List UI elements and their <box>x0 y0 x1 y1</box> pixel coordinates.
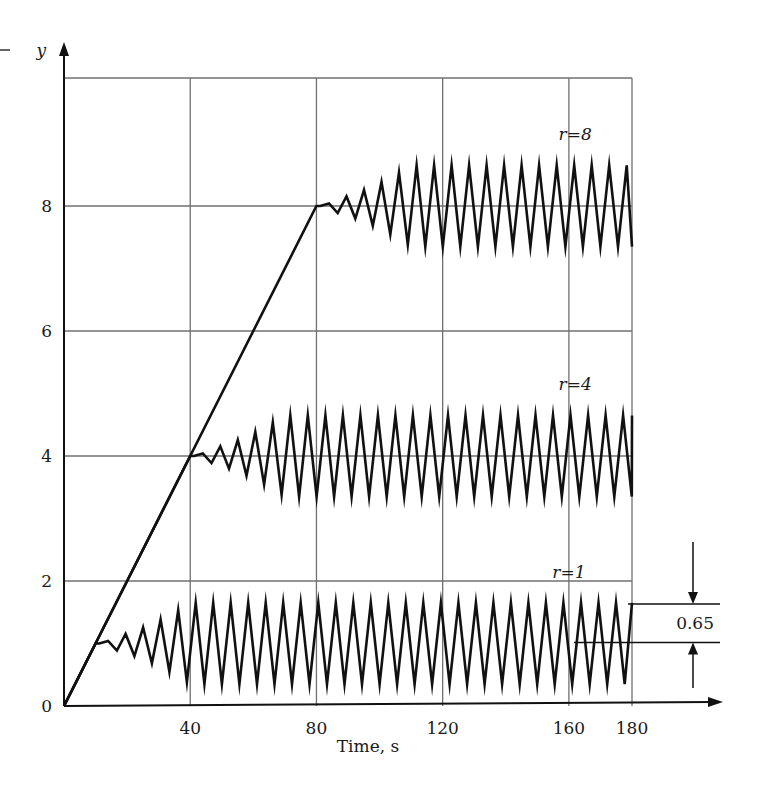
series-line-r8 <box>64 165 632 706</box>
plot-area: 408012016018002468yTime, s 0.65 r=1r=4r=… <box>0 0 760 792</box>
series-label-r1: r=1 <box>552 562 585 582</box>
y-tick-label: 0 <box>41 696 52 716</box>
y-tick-label: 2 <box>41 571 52 591</box>
y-axis-arrow-icon <box>59 42 69 56</box>
x-tick-label: 80 <box>306 718 328 738</box>
x-axis-arrow-icon <box>708 697 723 707</box>
series-label-r8: r=8 <box>559 124 592 144</box>
y-tick-label: 6 <box>41 321 52 341</box>
x-axis-line <box>64 702 712 706</box>
x-tick-label: 160 <box>553 718 585 738</box>
x-axis-title: Time, s <box>337 736 400 756</box>
y-tick-label: 4 <box>41 446 52 466</box>
x-tick-label: 180 <box>616 718 648 738</box>
y-axis-title: y <box>35 40 46 60</box>
arrow-up-icon <box>688 643 698 655</box>
amplitude-label: 0.65 <box>676 613 714 633</box>
data-series <box>64 165 632 706</box>
series-line-r1 <box>64 603 632 706</box>
chart: 408012016018002468yTime, s 0.65 r=1r=4r=… <box>0 0 760 792</box>
x-tick-label: 40 <box>179 718 201 738</box>
arrow-down-icon <box>688 592 698 604</box>
y-tick-label: 8 <box>41 196 52 216</box>
x-tick-label: 120 <box>426 718 458 738</box>
series-label-r4: r=4 <box>559 374 592 394</box>
